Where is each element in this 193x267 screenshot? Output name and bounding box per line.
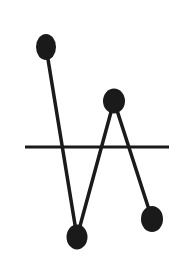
point-dot xyxy=(36,34,56,60)
segment-line xyxy=(114,101,152,219)
point-dot xyxy=(67,225,88,250)
data-points xyxy=(36,34,163,250)
segment-line xyxy=(77,101,114,237)
segment-line xyxy=(46,47,77,237)
point-dot xyxy=(103,89,125,114)
zigzag-diagram xyxy=(0,0,193,267)
point-dot xyxy=(141,206,163,232)
connecting-lines xyxy=(46,47,152,237)
